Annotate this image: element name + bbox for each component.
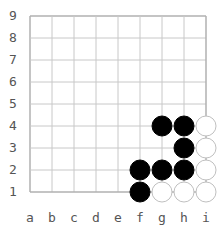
- intersection-c4[interactable]: [63, 115, 85, 137]
- intersection-d7[interactable]: [85, 49, 107, 71]
- intersection-i5[interactable]: [195, 93, 217, 115]
- column-label-f: f: [133, 211, 147, 224]
- row-label-1: 1: [6, 185, 20, 198]
- go-board[interactable]: 987654321 abcdefghi: [0, 0, 223, 231]
- intersection-b2[interactable]: [41, 159, 63, 181]
- intersection-c7[interactable]: [63, 49, 85, 71]
- intersection-b1[interactable]: [41, 181, 63, 203]
- intersection-d9[interactable]: [85, 5, 107, 27]
- intersection-h9[interactable]: [173, 5, 195, 27]
- intersection-d8[interactable]: [85, 27, 107, 49]
- intersection-f5[interactable]: [129, 93, 151, 115]
- intersection-c1[interactable]: [63, 181, 85, 203]
- intersection-b7[interactable]: [41, 49, 63, 71]
- intersection-g9[interactable]: [151, 5, 173, 27]
- intersection-e4[interactable]: [107, 115, 129, 137]
- row-label-8: 8: [6, 31, 20, 44]
- intersection-b3[interactable]: [41, 137, 63, 159]
- black-stone-h2[interactable]: [174, 160, 194, 180]
- intersection-f8[interactable]: [129, 27, 151, 49]
- intersection-h8[interactable]: [173, 27, 195, 49]
- intersection-e3[interactable]: [107, 137, 129, 159]
- black-stone-h4[interactable]: [174, 116, 194, 136]
- intersection-g8[interactable]: [151, 27, 173, 49]
- row-label-9: 9: [6, 9, 20, 22]
- intersection-e8[interactable]: [107, 27, 129, 49]
- intersection-d3[interactable]: [85, 137, 107, 159]
- intersection-c2[interactable]: [63, 159, 85, 181]
- intersection-b5[interactable]: [41, 93, 63, 115]
- intersection-c6[interactable]: [63, 71, 85, 93]
- row-label-6: 6: [6, 75, 20, 88]
- row-label-3: 3: [6, 141, 20, 154]
- column-label-g: g: [155, 211, 169, 224]
- intersection-c8[interactable]: [63, 27, 85, 49]
- black-stone-f2[interactable]: [130, 160, 150, 180]
- column-label-h: h: [177, 211, 191, 224]
- intersection-e9[interactable]: [107, 5, 129, 27]
- intersection-b9[interactable]: [41, 5, 63, 27]
- column-label-d: d: [89, 211, 103, 224]
- intersection-g7[interactable]: [151, 49, 173, 71]
- row-label-4: 4: [6, 119, 20, 132]
- column-label-c: c: [67, 211, 81, 224]
- white-stone-g1[interactable]: [152, 182, 172, 202]
- intersection-e1[interactable]: [107, 181, 129, 203]
- white-stone-i4[interactable]: [196, 116, 216, 136]
- board-grid[interactable]: [0, 0, 223, 231]
- intersection-c3[interactable]: [63, 137, 85, 159]
- intersection-e6[interactable]: [107, 71, 129, 93]
- intersection-a7[interactable]: [19, 49, 41, 71]
- intersection-e5[interactable]: [107, 93, 129, 115]
- white-stone-i1[interactable]: [196, 182, 216, 202]
- intersection-b8[interactable]: [41, 27, 63, 49]
- intersection-d2[interactable]: [85, 159, 107, 181]
- column-label-e: e: [111, 211, 125, 224]
- intersection-i9[interactable]: [195, 5, 217, 27]
- intersection-f6[interactable]: [129, 71, 151, 93]
- intersection-e7[interactable]: [107, 49, 129, 71]
- intersection-i6[interactable]: [195, 71, 217, 93]
- intersection-c9[interactable]: [63, 5, 85, 27]
- intersection-h5[interactable]: [173, 93, 195, 115]
- intersection-a3[interactable]: [19, 137, 41, 159]
- intersection-a4[interactable]: [19, 115, 41, 137]
- intersection-g3[interactable]: [151, 137, 173, 159]
- intersection-e2[interactable]: [107, 159, 129, 181]
- intersection-g5[interactable]: [151, 93, 173, 115]
- intersection-a6[interactable]: [19, 71, 41, 93]
- intersection-a8[interactable]: [19, 27, 41, 49]
- intersection-c5[interactable]: [63, 93, 85, 115]
- intersection-h7[interactable]: [173, 49, 195, 71]
- intersection-h6[interactable]: [173, 71, 195, 93]
- intersection-d4[interactable]: [85, 115, 107, 137]
- row-label-5: 5: [6, 97, 20, 110]
- black-stone-g4[interactable]: [152, 116, 172, 136]
- intersection-g6[interactable]: [151, 71, 173, 93]
- column-label-b: b: [45, 211, 59, 224]
- intersection-d5[interactable]: [85, 93, 107, 115]
- black-stone-h3[interactable]: [174, 138, 194, 158]
- intersection-d6[interactable]: [85, 71, 107, 93]
- white-stone-i2[interactable]: [196, 160, 216, 180]
- intersection-f4[interactable]: [129, 115, 151, 137]
- white-stone-h1[interactable]: [174, 182, 194, 202]
- intersection-b6[interactable]: [41, 71, 63, 93]
- column-label-a: a: [23, 211, 37, 224]
- intersection-i8[interactable]: [195, 27, 217, 49]
- intersection-d1[interactable]: [85, 181, 107, 203]
- column-label-i: i: [199, 211, 213, 224]
- intersection-i7[interactable]: [195, 49, 217, 71]
- intersection-a1[interactable]: [19, 181, 41, 203]
- intersection-f7[interactable]: [129, 49, 151, 71]
- intersection-f3[interactable]: [129, 137, 151, 159]
- white-stone-i3[interactable]: [196, 138, 216, 158]
- row-label-7: 7: [6, 53, 20, 66]
- intersection-f9[interactable]: [129, 5, 151, 27]
- intersection-a5[interactable]: [19, 93, 41, 115]
- intersection-a9[interactable]: [19, 5, 41, 27]
- black-stone-f1[interactable]: [130, 182, 150, 202]
- black-stone-g2[interactable]: [152, 160, 172, 180]
- intersection-b4[interactable]: [41, 115, 63, 137]
- intersection-a2[interactable]: [19, 159, 41, 181]
